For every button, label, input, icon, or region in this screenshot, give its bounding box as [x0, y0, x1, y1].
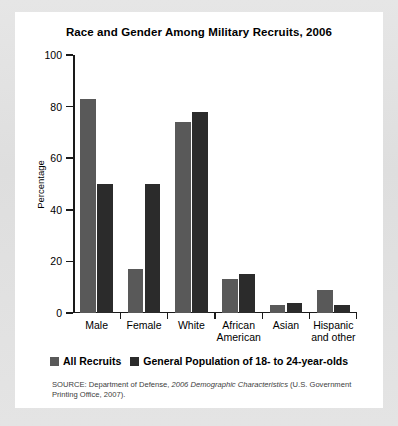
bar-group [120, 55, 167, 313]
x-axis-category-label: AfricanAmerican [215, 320, 262, 343]
legend-swatch-icon-all-recruits [50, 357, 59, 366]
bar [97, 184, 113, 313]
bar-group [310, 55, 357, 313]
y-axis-label: Percentage [33, 55, 47, 313]
source-prefix: SOURCE: Department of Defense, [52, 380, 171, 389]
y-axis-tick [66, 157, 73, 159]
legend-item-all-recruits: All Recruits [50, 355, 121, 367]
y-axis-tick [66, 209, 73, 211]
y-axis-tick-label: 0 [56, 307, 62, 319]
y-axis-tick-label: 40 [50, 204, 62, 216]
x-axis-tick [356, 313, 358, 319]
bar-group [73, 55, 120, 313]
legend-label-all-recruits: All Recruits [63, 355, 121, 367]
bar [222, 279, 238, 313]
bar [80, 99, 96, 313]
y-axis-tick [66, 261, 73, 263]
x-axis-category-label-line: African [215, 320, 262, 332]
bar [192, 112, 208, 313]
x-axis-category-label: Asian [262, 320, 309, 332]
plot-area: 020406080100 MaleFemaleWhiteAfricanAmeri… [73, 55, 357, 313]
x-axis-tick [262, 313, 264, 319]
bar [239, 274, 255, 313]
x-axis-tick [214, 313, 216, 319]
bar [334, 305, 350, 313]
chart-title: Race and Gender Among Military Recruits,… [15, 26, 383, 38]
y-axis-tick [66, 54, 73, 56]
bar [270, 305, 286, 313]
x-axis-category-label-line: and other [310, 332, 357, 344]
y-axis-tick-label: 80 [50, 101, 62, 113]
source-note: SOURCE: Department of Defense, 2006 Demo… [52, 380, 352, 400]
legend-swatch-icon-general-population [130, 357, 139, 366]
x-axis-category-label: White [168, 320, 215, 332]
bar-group [262, 55, 309, 313]
source-italic-title: 2006 Demographic Characteristics [171, 380, 288, 389]
bar [175, 122, 191, 313]
chart-card: Race and Gender Among Military Recruits,… [15, 12, 383, 408]
x-axis-category-label-line: Female [120, 320, 167, 332]
y-axis-tick-label: 60 [50, 152, 62, 164]
y-axis-tick-label: 20 [50, 255, 62, 267]
chart-legend: All Recruits General Population of 18- t… [15, 355, 383, 367]
bar-group [168, 55, 215, 313]
x-axis-tick [120, 313, 122, 319]
x-axis-tick [167, 313, 169, 319]
bar-group [215, 55, 262, 313]
y-axis-tick-label: 100 [44, 49, 62, 61]
x-axis-category-label: Female [120, 320, 167, 332]
x-axis-category-label-line: Hispanic [310, 320, 357, 332]
y-axis-label-text: Percentage [35, 160, 46, 209]
y-axis-tick [66, 106, 73, 108]
bar [317, 290, 333, 313]
x-axis-category-label: Male [73, 320, 120, 332]
bar [145, 184, 161, 313]
x-axis-tick [309, 313, 311, 319]
x-axis-category-label: Hispanicand other [310, 320, 357, 343]
x-axis-category-label-line: Asian [262, 320, 309, 332]
x-axis-category-label-line: Male [73, 320, 120, 332]
x-axis-category-label-line: White [168, 320, 215, 332]
bar [128, 269, 144, 313]
legend-label-general-population: General Population of 18- to 24-year-old… [143, 355, 348, 367]
bar [287, 303, 303, 313]
legend-item-general-population: General Population of 18- to 24-year-old… [130, 355, 348, 367]
x-axis-category-label-line: American [215, 332, 262, 344]
y-axis-tick [66, 312, 73, 314]
